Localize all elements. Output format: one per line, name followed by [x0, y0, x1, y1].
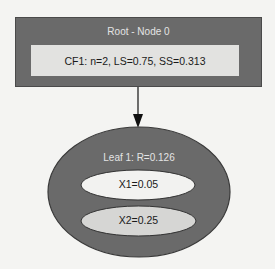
- leaf-node-title: Leaf 1: R=0.126: [48, 152, 230, 163]
- diagram-graphics: [0, 0, 275, 269]
- entry-x1-label: X1=0.05: [81, 178, 196, 190]
- entry-x2-label: X2=0.25: [81, 214, 196, 226]
- arrow-head-icon: [133, 114, 143, 128]
